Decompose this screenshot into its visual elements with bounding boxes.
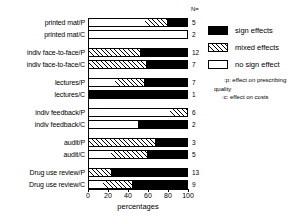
chart-row: [88, 30, 188, 39]
segment-mixed-effects: [115, 79, 143, 86]
segment-no-sign-effect: [89, 79, 115, 86]
row-n-value: 1: [192, 90, 196, 99]
stacked-bar: [88, 180, 188, 189]
legend-label: mixed effects: [235, 42, 279, 53]
x-axis-tick-label: 80: [164, 192, 172, 199]
segment-mixed-effects: [89, 139, 155, 146]
y-axis-line: [88, 18, 89, 189]
stacked-bar: [88, 108, 188, 117]
row-label: audit/P: [64, 138, 85, 147]
legend-swatch: [208, 26, 228, 35]
chart-row: [88, 120, 188, 129]
chart-row: [88, 150, 188, 159]
stacked-bar: [88, 18, 188, 27]
segment-mixed-effects: [89, 169, 111, 176]
legend-swatch: [208, 43, 228, 52]
stacked-bar: [88, 150, 188, 159]
row-label: Drug use review/C: [29, 180, 85, 189]
row-label: printed mat/C: [44, 30, 85, 39]
footnote-line-1: :p: effect on prescribing: [224, 76, 300, 85]
stacked-bar: [88, 138, 188, 147]
row-n-value: 13: [192, 168, 199, 177]
row-label: indiv feedback/C: [35, 120, 85, 129]
segment-no-sign-effect: [89, 109, 170, 116]
segment-sign-effects: [155, 139, 187, 146]
legend-label: no sign effect: [235, 59, 279, 70]
legend-label: sign effects: [235, 25, 273, 36]
row-label: Drug use review/P: [30, 168, 86, 177]
x-axis-tick-label: 100: [182, 192, 194, 199]
row-label: lectures/P: [55, 78, 85, 87]
plot-area: [88, 18, 188, 189]
segment-sign-effects: [147, 151, 187, 158]
segment-sign-effects: [138, 121, 187, 128]
row-n-value: 2: [192, 120, 196, 129]
segment-no-sign-effect: [89, 19, 145, 26]
n-column-header: N=: [191, 6, 198, 12]
chart-row: [88, 168, 188, 177]
stacked-bar: [88, 78, 188, 87]
segment-sign-effects: [111, 169, 187, 176]
x-axis-tick-label: 20: [104, 192, 112, 199]
row-n-value: 7: [192, 78, 196, 87]
x-axis-line: [88, 189, 188, 190]
segment-sign-effects: [89, 91, 187, 98]
row-label: indiv feedback/P: [35, 108, 85, 117]
segment-sign-effects: [132, 181, 187, 188]
segment-sign-effects: [144, 79, 187, 86]
x-axis-tick-label: 40: [124, 192, 132, 199]
row-n-value: 9: [192, 180, 196, 189]
row-n-value: 6: [192, 108, 196, 117]
footnote-line-3: :c: effect on costs: [222, 93, 300, 102]
row-n-value: 7: [192, 60, 196, 69]
chart-row: [88, 48, 188, 57]
segment-sign-effects: [167, 19, 187, 26]
row-n-value: 3: [192, 138, 196, 147]
chart-row: [88, 138, 188, 147]
legend-item: sign effects: [208, 24, 300, 39]
segment-mixed-effects: [145, 19, 168, 26]
segment-mixed-effects: [89, 61, 146, 68]
chart-row: [88, 18, 188, 27]
legend: sign effectsmixed effectsno sign effect: [208, 24, 300, 75]
legend-item: mixed effects: [208, 41, 300, 56]
segment-no-sign-effect: [89, 31, 187, 38]
stacked-bar: [88, 60, 188, 69]
segment-no-sign-effect: [89, 121, 138, 128]
chart-row: [88, 180, 188, 189]
chart-row: [88, 90, 188, 99]
row-n-value: 2: [192, 30, 196, 39]
chart-container: N= printed mat/Pprinted mat/Cindiv face-…: [0, 0, 300, 224]
segment-no-sign-effect: [89, 181, 103, 188]
segment-no-sign-effect: [89, 151, 111, 158]
stacked-bar: [88, 48, 188, 57]
row-label: audit/C: [64, 150, 85, 159]
x-axis-tick-label: 60: [144, 192, 152, 199]
segment-mixed-effects: [111, 151, 147, 158]
segment-sign-effects: [146, 61, 187, 68]
chart-row: [88, 78, 188, 87]
stacked-bar: [88, 168, 188, 177]
row-label: lectures/C: [54, 90, 85, 99]
footnotes: :p: effect on prescribing quality :c: ef…: [214, 76, 300, 102]
x-axis-tick-label: 0: [86, 192, 90, 199]
segment-mixed-effects: [103, 181, 132, 188]
legend-item: no sign effect: [208, 58, 300, 73]
segment-mixed-effects: [89, 49, 140, 56]
chart-row: [88, 108, 188, 117]
footnote-line-2: quality: [214, 85, 300, 94]
row-label: printed mat/P: [45, 18, 85, 27]
stacked-bar: [88, 30, 188, 39]
stacked-bar: [88, 90, 188, 99]
stacked-bar: [88, 120, 188, 129]
row-n-value: 5: [192, 18, 196, 27]
segment-sign-effects: [140, 49, 187, 56]
row-label: indiv face-to-face/P: [27, 48, 85, 57]
row-n-value: 12: [192, 48, 199, 57]
segment-mixed-effects: [170, 109, 187, 116]
row-n-value: 5: [192, 150, 196, 159]
x-axis-label: percentages: [88, 202, 188, 211]
chart-row: [88, 60, 188, 69]
legend-swatch: [208, 60, 228, 69]
row-label: indiv face-to-face/C: [27, 60, 85, 69]
